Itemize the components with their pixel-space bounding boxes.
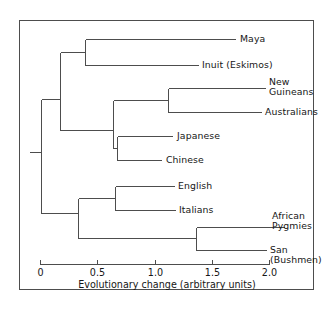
tip-label-inuit: Inuit (Eskimos) (202, 60, 273, 70)
tip-label-japanese: Japanese (177, 131, 220, 141)
tip-label-chinese: Chinese (166, 155, 204, 165)
axis-tick-label-0: 0 (26, 267, 55, 278)
tip-label-african-pygmies: African Pygmies (272, 211, 312, 232)
tip-label-new-guineans: New Guineans (269, 77, 314, 98)
axis-title: Evolutionary change (arbitrary units) (0, 279, 334, 290)
phylogenetic-tree-figure: Maya Inuit (Eskimos) New Guineans Austra… (0, 0, 334, 309)
axis-tick-label-1-5: 1.5 (198, 267, 227, 278)
tip-label-san: San (Bushmen) (270, 245, 322, 266)
axis-tick-label-0-5: 0.5 (83, 267, 112, 278)
tip-label-maya: Maya (240, 34, 265, 44)
tip-label-english: English (178, 181, 212, 191)
axis-tick-label-2-0: 2.0 (255, 267, 284, 278)
tip-label-italians: Italians (179, 205, 213, 215)
axis-tick-label-1-0: 1.0 (141, 267, 170, 278)
tip-label-australians: Australians (265, 107, 318, 117)
